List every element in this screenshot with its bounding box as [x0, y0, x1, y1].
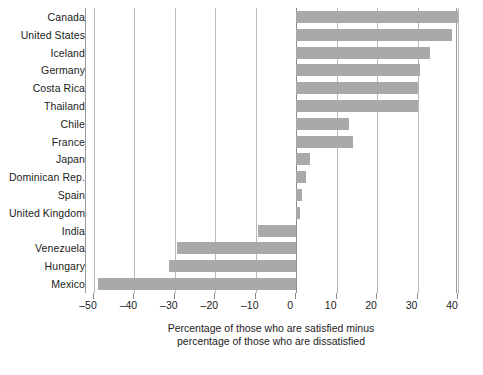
bar	[296, 64, 419, 76]
gridline--30	[175, 8, 176, 293]
x-axis-caption: Percentage of those who are satisfied mi…	[85, 322, 457, 348]
gridline--50	[94, 8, 95, 293]
tick-label-20: 20	[365, 299, 377, 311]
category-label-text: Thailand	[44, 101, 85, 112]
tick-label-10: 10	[325, 299, 337, 311]
bar	[258, 225, 296, 237]
category-label: Costa Rica	[33, 83, 85, 94]
category-label-text: France	[52, 137, 85, 148]
category-label: Canada	[48, 12, 85, 23]
bar	[296, 171, 306, 183]
bar	[296, 100, 417, 112]
category-label: United Kingdom	[9, 208, 85, 219]
bar	[169, 260, 296, 272]
category-label: Iceland	[50, 48, 85, 59]
category-label-text: Japan	[56, 154, 85, 165]
bar	[296, 29, 452, 41]
category-label-text: Iceland	[50, 48, 85, 59]
category-label-text: Germany	[41, 65, 85, 76]
bar	[296, 47, 429, 59]
bar	[177, 242, 296, 254]
tick-label--10: –10	[241, 299, 259, 311]
bar	[98, 278, 296, 290]
gridline--40	[134, 8, 135, 293]
tick-label--50: –50	[79, 299, 97, 311]
category-label: Venezuela	[35, 243, 85, 254]
bar	[296, 136, 353, 148]
category-label-text: Costa Rica	[33, 83, 85, 94]
category-label-text: United Kingdom	[9, 208, 85, 219]
category-label: India	[62, 226, 85, 237]
category-label-text: Hungary	[45, 261, 85, 272]
gridline-40	[458, 8, 459, 293]
category-label-text: Dominican Rep.	[9, 172, 85, 183]
x-axis: –50–40–30–20–10010203040	[85, 293, 457, 313]
tick-label-0: 0	[287, 299, 293, 311]
tick-label--20: –20	[201, 299, 219, 311]
category-label: Japan	[56, 154, 85, 165]
caption-line-1: Percentage of those who are satisfied mi…	[85, 322, 457, 335]
category-label: France	[52, 137, 85, 148]
category-label-text: India	[62, 226, 85, 237]
tick-mark-0	[295, 293, 296, 299]
category-label: Hungary	[45, 261, 85, 272]
category-label-text: Mexico	[51, 279, 85, 290]
category-label-text: Chile	[61, 119, 85, 130]
bar	[296, 118, 349, 130]
category-label: Dominican Rep.	[9, 172, 85, 183]
plot-area	[85, 8, 457, 293]
bar	[296, 153, 310, 165]
bar-chart: CanadaUnited StatesIcelandGermanyCosta R…	[0, 0, 483, 375]
tick-label--30: –30	[160, 299, 178, 311]
tick-label--40: –40	[120, 299, 138, 311]
category-label: Spain	[58, 190, 85, 201]
category-label: Chile	[61, 119, 85, 130]
bar	[296, 189, 302, 201]
tick-label-40: 40	[446, 299, 458, 311]
category-label-text: Spain	[58, 190, 85, 201]
caption-line-2: percentage of those who are dissatisfied	[85, 335, 457, 348]
category-label: Germany	[41, 65, 85, 76]
tick-label-30: 30	[406, 299, 418, 311]
category-label: Thailand	[44, 101, 85, 112]
category-label-text: Venezuela	[35, 243, 85, 254]
category-label: United States	[21, 30, 85, 41]
bar	[296, 207, 300, 219]
category-label-text: Canada	[48, 12, 85, 23]
bar	[296, 82, 417, 94]
category-label-text: United States	[21, 30, 85, 41]
category-label: Mexico	[51, 279, 85, 290]
bar	[296, 11, 458, 23]
